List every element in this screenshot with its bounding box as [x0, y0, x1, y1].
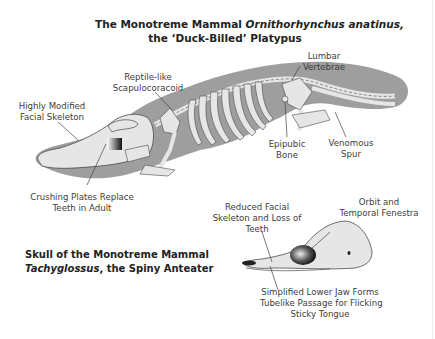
label-crushing-plates: Crushing Plates Replace Teeth in Adult [22, 192, 142, 214]
label-line: Vertebrae [294, 62, 354, 73]
label-lumbar-vertebrae: Lumbar Vertebrae [294, 51, 354, 73]
label-line: Crushing Plates Replace [22, 192, 142, 203]
label-orbit-fenestra: Orbit and Temporal Fenestra [334, 197, 424, 219]
label-line: Temporal Fenestra [334, 208, 424, 219]
label-line: Facial Skeleton [12, 112, 92, 123]
front-paw [140, 165, 175, 176]
label-line: Skeleton and Loss of [212, 213, 302, 224]
label-line: Epipubic [262, 139, 312, 150]
label-line: Reduced Facial [212, 202, 302, 213]
label-reduced-facial: Reduced Facial Skeleton and Loss of Teet… [212, 202, 302, 235]
label-scapulocoracoid: Reptile-like Scapulocoracoid [108, 72, 188, 94]
anteater-common-name: , the Spiny Anteater [99, 263, 213, 274]
label-line: Bone [262, 150, 312, 161]
label-line: Lumbar [294, 51, 354, 62]
anteater-ear-opening [348, 251, 351, 255]
label-epipubic-bone: Epipubic Bone [262, 139, 312, 161]
label-line: Tubelike Passage for Flicking [260, 298, 380, 309]
hind-paw [292, 110, 330, 128]
label-line: Teeth [212, 224, 302, 235]
anteater-genus: Tachyglossus [25, 263, 99, 274]
label-line: Spur [321, 149, 381, 160]
label-line: Orbit and [334, 197, 424, 208]
label-venomous-spur: Venomous Spur [321, 138, 381, 160]
label-facial-skeleton: Highly Modified Facial Skeleton [12, 101, 92, 123]
label-line: Reptile-like [108, 72, 188, 83]
anteater-nostril [242, 261, 256, 266]
label-line: Simplified Lower Jaw Forms [260, 287, 380, 298]
diagram-canvas: The Monotreme Mammal Ornithorhynchus ana… [0, 0, 435, 339]
crushing-plate [107, 138, 122, 150]
anteater-title-line1: Skull of the Monotreme Mammal [25, 248, 205, 262]
label-line: Teeth in Adult [22, 203, 142, 214]
label-line: Venomous [321, 138, 381, 149]
anteater-title-line2: Tachyglossus, the Spiny Anteater [25, 262, 205, 276]
epipubic-bone [282, 96, 288, 102]
anteater-title: Skull of the Monotreme Mammal Tachygloss… [25, 248, 205, 276]
label-line: Highly Modified [12, 101, 92, 112]
page-edge-line [432, 0, 433, 339]
label-line: Sticky Tongue [260, 309, 380, 320]
label-lower-jaw: Simplified Lower Jaw Forms Tubelike Pass… [260, 287, 380, 320]
label-line: Scapulocoracoid [108, 83, 188, 94]
